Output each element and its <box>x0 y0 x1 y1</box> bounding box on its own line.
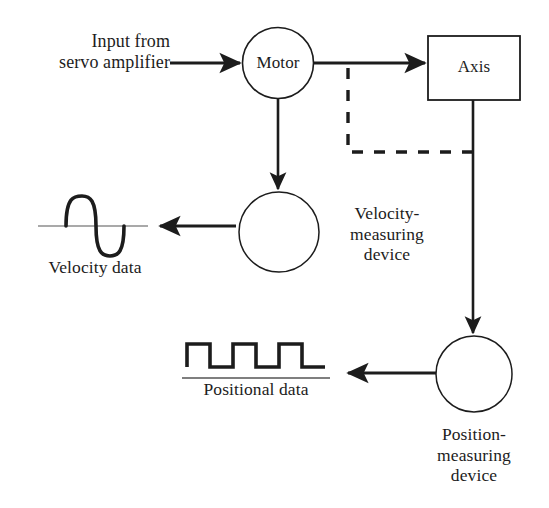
diagram-canvas: Input fromservo amplifier Motor Axis Vel… <box>0 0 549 508</box>
velocity-device-line1: Velocity- <box>354 203 419 223</box>
velocity-device-line2: measuring <box>350 224 424 244</box>
input-source-line2: servo amplifier <box>59 52 170 72</box>
position-device-line2: measuring <box>437 445 511 465</box>
velocity-device-line3: device <box>364 244 410 264</box>
input-source-label: Input fromservo amplifier <box>22 31 170 73</box>
position-device-line3: device <box>451 465 497 485</box>
positional-square-waveform <box>187 344 325 367</box>
velocity-measuring-device-node <box>239 192 319 272</box>
axis-label: Axis <box>458 57 491 77</box>
velocity-data-label: Velocity data <box>48 257 141 278</box>
position-measuring-device-node <box>436 336 512 412</box>
input-source-line1: Input from <box>92 31 170 51</box>
motor-label: Motor <box>257 53 300 73</box>
positional-data-label: Positional data <box>203 379 308 400</box>
velocity-measuring-device-label: Velocity-measuringdevice <box>325 203 449 265</box>
position-measuring-device-label: Position-measuringdevice <box>412 424 536 486</box>
position-device-line1: Position- <box>442 424 506 444</box>
